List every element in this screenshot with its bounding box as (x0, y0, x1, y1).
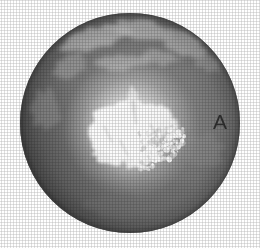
panel-label-a: A (209, 110, 231, 134)
figure-panel-a: A (0, 0, 260, 248)
